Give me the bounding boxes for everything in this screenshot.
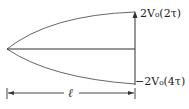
top-voltage-label: 2V₀(2τ) <box>140 7 181 20</box>
upper-envelope-curve <box>7 12 135 49</box>
bottom-voltage-label: −2V₀(4τ) <box>135 75 185 88</box>
right-arrowhead-icon <box>128 91 134 95</box>
left-arrowhead-icon <box>8 91 14 95</box>
length-label: ℓ <box>68 86 73 100</box>
voltage-diagram: 2V₀(2τ) −2V₀(4τ) ℓ <box>0 0 189 109</box>
lower-envelope-curve <box>7 49 135 84</box>
